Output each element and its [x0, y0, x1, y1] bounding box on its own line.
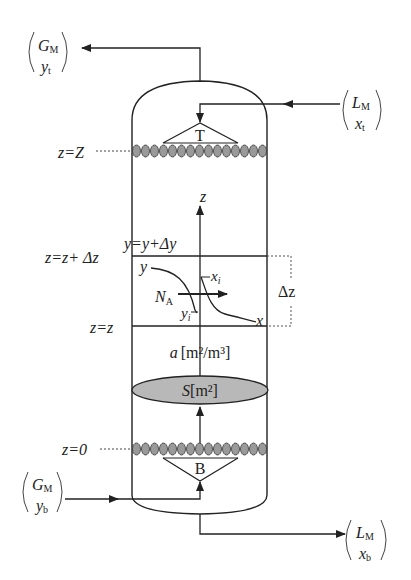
- top-packing-support: [132, 144, 267, 158]
- delta-z-label: Δz: [278, 283, 295, 300]
- svg-text:yt: yt: [39, 58, 51, 76]
- upper-condition-label: y=y+Δy: [122, 235, 177, 253]
- specific-area-label: a[m²/m³]: [170, 344, 231, 361]
- flux-label: NA: [154, 288, 174, 307]
- svg-text:GM: GM: [38, 37, 59, 55]
- interface-gas-label: yi: [179, 305, 191, 323]
- svg-text:LM: LM: [351, 94, 370, 112]
- interface-liquid-label: xi: [210, 268, 221, 286]
- gas-curve-label: y: [138, 258, 148, 276]
- liquid-inlet-line: [200, 104, 340, 122]
- level-bottom-label: z=0: [61, 441, 87, 458]
- svg-text:xt: xt: [354, 115, 365, 133]
- gas-inlet-stream-label: GM yb: [23, 472, 62, 515]
- bottom-distributor-label: B: [195, 460, 206, 477]
- gas-outlet-line: [82, 48, 200, 81]
- level-lower-label: z=z: [89, 319, 114, 336]
- gas-outlet-stream-label: GM yt: [29, 32, 67, 76]
- liquid-outlet-line: [200, 514, 345, 534]
- liquid-outlet-stream-label: LM xb: [346, 520, 386, 563]
- liquid-profile-curve: [201, 277, 256, 322]
- svg-text:yb: yb: [34, 497, 48, 515]
- bottom-packing-support: [132, 442, 267, 456]
- top-distributor: T: [163, 123, 238, 144]
- cross-section-label: S[m²]: [182, 382, 218, 399]
- svg-text:GM: GM: [32, 476, 53, 494]
- z-axis-label: z: [199, 188, 207, 205]
- liquid-inlet-stream-label: LM xt: [343, 90, 381, 133]
- liquid-curve-label: x: [255, 312, 263, 329]
- top-distributor-label: T: [195, 127, 205, 144]
- svg-text:xb: xb: [358, 545, 371, 563]
- level-top-label: z=Z: [57, 144, 85, 161]
- bottom-distributor: B: [163, 458, 238, 481]
- absorption-column-diagram: T z=Z z z=z+ Δz z=z y=y+Δy Δz y x xi yi …: [0, 0, 411, 580]
- svg-text:LM: LM: [355, 524, 374, 542]
- level-upper-label: z=z+ Δz: [44, 249, 99, 266]
